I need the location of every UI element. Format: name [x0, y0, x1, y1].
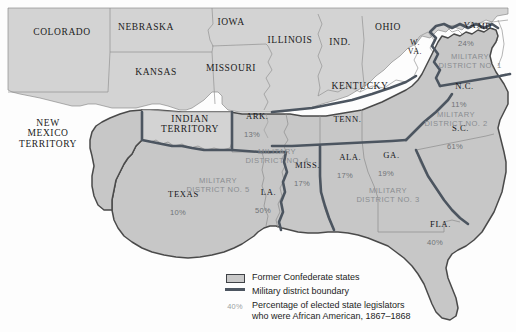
legend-key-district-boundary — [222, 286, 248, 291]
legend-key-percentage: 40% — [222, 300, 248, 311]
map-legend: Former Confederate states Military distr… — [222, 272, 472, 325]
confederate-swatch-icon — [226, 274, 245, 283]
legend-row-district-boundary: Military district boundary — [222, 286, 472, 297]
legend-key-confederate — [222, 272, 248, 283]
legend-label-percentage: Percentage of elected state legislators … — [248, 300, 411, 322]
legend-row-confederate: Former Confederate states — [222, 272, 472, 283]
map-figure: COLORADO NEBRASKA IOWA KANSAS MISSOURI I… — [0, 0, 516, 332]
legend-label-confederate: Former Confederate states — [248, 272, 360, 283]
legend-label-district-boundary: Military district boundary — [248, 286, 349, 297]
legend-row-percentage: 40% Percentage of elected state legislat… — [222, 300, 472, 322]
percentage-sample-text: 40% — [227, 302, 242, 311]
district-boundary-swatch-icon — [225, 288, 245, 291]
